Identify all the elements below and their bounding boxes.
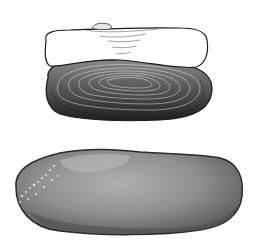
shell-illustration bbox=[0, 0, 264, 249]
engraved-shell bbox=[45, 23, 212, 121]
photographed-shell bbox=[16, 149, 243, 234]
